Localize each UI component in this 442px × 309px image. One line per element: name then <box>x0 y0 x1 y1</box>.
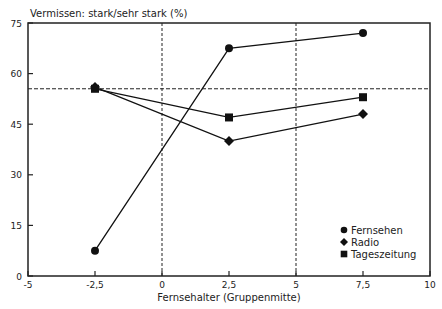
legend: FernsehenRadioTageszeitung <box>340 225 416 260</box>
circle-marker-icon <box>225 44 233 52</box>
x-tick-label: 2,5 <box>222 280 236 290</box>
x-tick-label: -2,5 <box>86 280 104 290</box>
y-tick-label: 15 <box>11 221 22 231</box>
circle-marker-icon <box>91 247 99 255</box>
square-marker-icon <box>341 251 348 258</box>
diamond-marker-icon <box>224 136 234 146</box>
x-axis-label: Fernsehalter (Gruppenmitte) <box>157 292 300 303</box>
x-tick-label: 7,5 <box>356 280 370 290</box>
y-axis: 01530456075 <box>11 19 33 282</box>
line-chart: Vermissen: stark/sehr stark (%) 01530456… <box>0 0 442 309</box>
series-group <box>90 29 368 255</box>
y-tick-label: 60 <box>11 69 23 79</box>
square-marker-icon <box>225 113 233 121</box>
y-tick-label: 0 <box>16 272 22 282</box>
circle-marker-icon <box>341 227 348 234</box>
square-marker-icon <box>91 85 99 93</box>
x-tick-label: 5 <box>293 280 299 290</box>
x-tick-label: 0 <box>159 280 165 290</box>
x-tick-label: 10 <box>424 280 436 290</box>
y-tick-label: 75 <box>11 19 22 29</box>
chart-title: Vermissen: stark/sehr stark (%) <box>30 8 187 19</box>
series-tageszeitung <box>91 85 367 122</box>
legend-label: Radio <box>351 237 379 248</box>
y-tick-label: 45 <box>11 120 22 130</box>
diamond-marker-icon <box>358 109 368 119</box>
square-marker-icon <box>359 93 367 101</box>
x-tick-label: -5 <box>24 280 33 290</box>
circle-marker-icon <box>359 29 367 37</box>
diamond-marker-icon <box>340 238 348 246</box>
x-axis: -5-2,502,557,510 <box>24 271 436 290</box>
legend-label: Tageszeitung <box>350 249 416 260</box>
y-tick-label: 30 <box>11 170 23 180</box>
legend-label: Fernsehen <box>351 225 403 236</box>
